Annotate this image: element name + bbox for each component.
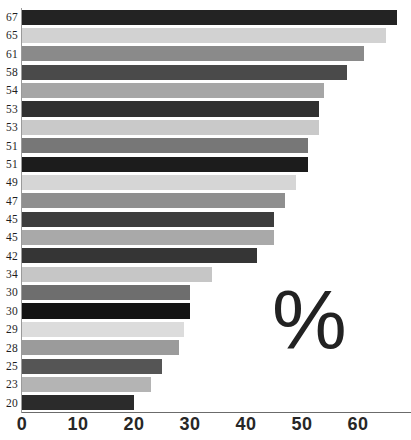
bar (22, 83, 324, 98)
bar-row: 28 (0, 339, 411, 357)
bar (22, 120, 319, 135)
bar (22, 303, 190, 318)
bar (22, 322, 184, 337)
bar-value-label: 23 (0, 375, 18, 393)
x-axis-tick: 30 (179, 414, 200, 435)
bar-value-label: 34 (0, 265, 18, 283)
bar-chart: 6765615854535351514947454542343030292825… (0, 0, 411, 440)
bar-value-label: 49 (0, 173, 18, 191)
bar-row: 29 (0, 320, 411, 338)
bar-fill (22, 340, 179, 355)
bar-value-label: 51 (0, 137, 18, 155)
x-axis-tick: 50 (291, 414, 312, 435)
x-axis-tick: 10 (67, 414, 88, 435)
bar (22, 395, 134, 410)
bar (22, 175, 296, 190)
bar-fill (22, 10, 397, 25)
bar-row: 30 (0, 283, 411, 301)
bar-value-label: 42 (0, 247, 18, 265)
bar-fill (22, 120, 319, 135)
bar-row: 61 (0, 45, 411, 63)
x-axis-tick: 20 (123, 414, 144, 435)
bar (22, 285, 190, 300)
x-axis-tick-labels: 0102030405060 (0, 414, 411, 440)
bar (22, 46, 364, 61)
bar-fill (22, 322, 184, 337)
bar (22, 230, 274, 245)
bar-row: 54 (0, 81, 411, 99)
bar-value-label: 25 (0, 357, 18, 375)
bar-value-label: 67 (0, 8, 18, 26)
percent-annotation: % (272, 278, 345, 362)
bar-fill (22, 138, 308, 153)
bar (22, 377, 151, 392)
bar-row: 51 (0, 155, 411, 173)
bar-row: 45 (0, 228, 411, 246)
bar-value-label: 54 (0, 81, 18, 99)
bar-fill (22, 28, 386, 43)
bar-value-label: 58 (0, 63, 18, 81)
bar (22, 28, 386, 43)
bar (22, 138, 308, 153)
bar-row: 47 (0, 192, 411, 210)
bar-value-label: 29 (0, 320, 18, 338)
bar-fill (22, 230, 274, 245)
bar-row: 65 (0, 26, 411, 44)
bar-fill (22, 101, 319, 116)
bar-row: 25 (0, 357, 411, 375)
bar-row: 34 (0, 265, 411, 283)
x-axis-tick: 0 (17, 414, 28, 435)
bar-fill (22, 248, 257, 263)
bar-row: 51 (0, 137, 411, 155)
bar-value-label: 20 (0, 394, 18, 412)
bar-row: 67 (0, 8, 411, 26)
bar-fill (22, 285, 190, 300)
bar-fill (22, 267, 212, 282)
bar-fill (22, 193, 285, 208)
bar-row: 23 (0, 375, 411, 393)
bar (22, 267, 212, 282)
bar (22, 101, 319, 116)
bar-row: 45 (0, 210, 411, 228)
bar-value-label: 30 (0, 302, 18, 320)
bar (22, 359, 162, 374)
bar-row: 58 (0, 63, 411, 81)
bar (22, 193, 285, 208)
y-axis-line (21, 8, 22, 413)
bar (22, 10, 397, 25)
bar-row: 20 (0, 394, 411, 412)
bar-value-label: 45 (0, 210, 18, 228)
bar-value-label: 65 (0, 26, 18, 44)
bar-row: 53 (0, 118, 411, 136)
bar-fill (22, 46, 364, 61)
plot-area: 6765615854535351514947454542343030292825… (0, 0, 411, 412)
bar-value-label: 53 (0, 100, 18, 118)
x-axis-line (22, 412, 411, 413)
bar-value-label: 61 (0, 45, 18, 63)
bar-row: 53 (0, 100, 411, 118)
bar (22, 65, 347, 80)
bar (22, 212, 274, 227)
bar-fill (22, 175, 296, 190)
bar-value-label: 30 (0, 283, 18, 301)
bar (22, 157, 308, 172)
x-axis-tick: 60 (347, 414, 368, 435)
bar-value-label: 53 (0, 118, 18, 136)
bar (22, 248, 257, 263)
bar (22, 340, 179, 355)
bar-fill (22, 303, 190, 318)
x-axis-tick: 40 (235, 414, 256, 435)
bar-value-label: 51 (0, 155, 18, 173)
bar-value-label: 28 (0, 339, 18, 357)
bar-value-label: 45 (0, 228, 18, 246)
bar-fill (22, 65, 347, 80)
bar-fill (22, 212, 274, 227)
bar-row: 49 (0, 173, 411, 191)
bar-fill (22, 377, 151, 392)
bar-fill (22, 83, 324, 98)
bar-row: 30 (0, 302, 411, 320)
bar-fill (22, 395, 134, 410)
bar-value-label: 47 (0, 192, 18, 210)
bar-row: 42 (0, 247, 411, 265)
bar-fill (22, 157, 308, 172)
